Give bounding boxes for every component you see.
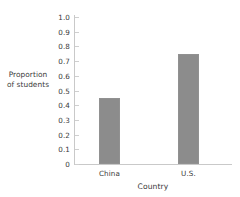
x-axis-title: Country: [74, 182, 232, 191]
y-axis-tick: [75, 149, 79, 150]
y-axis-tick-label: 0.3: [48, 116, 70, 125]
y-axis-tick-label: 0.7: [48, 57, 70, 66]
y-axis-tick: [75, 76, 79, 77]
y-axis-tick-label: 0: [48, 160, 70, 169]
y-axis-title: Proportion of students: [2, 70, 54, 89]
bar-chart: Proportion of students 1.00.90.80.70.60.…: [0, 0, 240, 197]
y-axis-tick: [75, 46, 79, 47]
y-axis-tick-label: 0.1: [48, 145, 70, 154]
y-axis-tick-label: 0.8: [48, 42, 70, 51]
y-axis-tick: [75, 91, 79, 92]
y-axis-tick-label: 0.6: [48, 72, 70, 81]
y-axis-title-line-2: of students: [2, 80, 54, 90]
y-axis-tick-label: 0.9: [48, 28, 70, 37]
x-axis-category-label: China: [80, 169, 140, 178]
y-axis-tick-label: 0.2: [48, 131, 70, 140]
x-axis-line: [74, 164, 232, 165]
x-axis-category-label: U.S.: [159, 169, 219, 178]
y-axis-tick: [75, 135, 79, 136]
y-axis-tick-label: 0.4: [48, 101, 70, 110]
y-axis-tick: [75, 61, 79, 62]
y-axis-tick: [75, 17, 79, 18]
bar: [99, 98, 120, 164]
y-axis-tick: [75, 105, 79, 106]
bar: [178, 54, 199, 164]
y-axis-tick: [75, 120, 79, 121]
y-axis-tick-label: 1.0: [48, 13, 70, 22]
y-axis-tick: [75, 164, 79, 165]
y-axis-title-line-1: Proportion: [2, 70, 54, 80]
y-axis-tick: [75, 32, 79, 33]
y-axis-tick-label: 0.5: [48, 87, 70, 96]
